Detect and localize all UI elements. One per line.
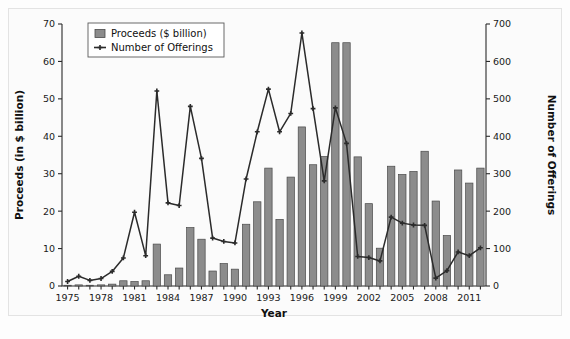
x-tick-label-7: 1996 xyxy=(290,292,314,303)
bar-1984 xyxy=(164,275,171,286)
bar-2009 xyxy=(443,235,450,286)
y-tick-label-7: 70 xyxy=(43,18,55,29)
bar-1987 xyxy=(198,239,205,286)
y-tick-label-1: 10 xyxy=(43,243,55,254)
bar-1978 xyxy=(97,285,104,286)
y-tick-label-5: 50 xyxy=(43,93,55,104)
bar-2002 xyxy=(365,204,372,286)
x-tick-label-3: 1984 xyxy=(156,292,180,303)
bar-1996 xyxy=(298,127,305,286)
legend-swatch-proceeds xyxy=(95,30,105,38)
offerings-marker-1977 xyxy=(87,278,92,283)
x-tick-label-11: 2008 xyxy=(424,292,448,303)
x-tick-label-2: 1981 xyxy=(122,292,146,303)
bar-1985 xyxy=(175,268,182,286)
offerings-marker-1982 xyxy=(143,253,148,258)
bar-1977 xyxy=(86,285,93,286)
x-tick-label-5: 1990 xyxy=(223,292,247,303)
chart-figure: 0102030405060700100200300400500600700197… xyxy=(0,0,570,339)
y2-tick-label-7: 700 xyxy=(493,18,511,29)
y2-tick-label-5: 500 xyxy=(493,93,511,104)
x-tick-label-6: 1993 xyxy=(256,292,280,303)
y2-axis-title: Number of Offerings xyxy=(546,95,558,216)
y-axis-title: Proceeds (in $ billion) xyxy=(13,90,25,220)
x-axis-title: Year xyxy=(260,307,288,319)
legend-label-offerings: Number of Offerings xyxy=(111,42,213,53)
y2-tick-label-1: 100 xyxy=(493,243,511,254)
y2-tick-label-0: 0 xyxy=(493,280,499,291)
x-tick-label-0: 1975 xyxy=(55,292,79,303)
bar-1975 xyxy=(64,285,71,286)
bar-2003 xyxy=(376,248,383,286)
bar-1979 xyxy=(109,284,116,286)
x-tick-label-4: 1987 xyxy=(189,292,213,303)
offerings-marker-1993 xyxy=(266,87,271,92)
offerings-marker-1975 xyxy=(65,279,70,284)
y-tick-label-3: 30 xyxy=(43,168,55,179)
y-tick-label-0: 0 xyxy=(49,280,55,291)
bar-2007 xyxy=(421,151,428,286)
legend-label-proceeds: Proceeds ($ billion) xyxy=(111,28,207,39)
y-tick-label-4: 40 xyxy=(43,131,55,142)
bar-2010 xyxy=(454,170,461,286)
ipo-proceeds-offerings-chart: 0102030405060700100200300400500600700197… xyxy=(0,0,570,339)
bar-1976 xyxy=(75,285,82,286)
offerings-marker-1985 xyxy=(177,203,182,208)
y2-tick-label-4: 400 xyxy=(493,131,511,142)
bar-2012 xyxy=(477,168,484,286)
x-tick-label-12: 2011 xyxy=(457,292,481,303)
offerings-marker-1992 xyxy=(255,129,260,134)
y-tick-label-6: 60 xyxy=(43,56,55,67)
bar-1988 xyxy=(209,271,216,286)
offerings-marker-1997 xyxy=(311,106,316,111)
offerings-marker-1987 xyxy=(199,156,204,161)
bar-2006 xyxy=(410,171,417,286)
bar-1986 xyxy=(187,228,194,286)
y-tick-label-2: 20 xyxy=(43,206,55,217)
bar-1983 xyxy=(153,244,160,286)
bar-1980 xyxy=(120,281,127,286)
bar-2001 xyxy=(354,157,361,286)
x-tick-label-9: 2002 xyxy=(357,292,381,303)
offerings-marker-1981 xyxy=(132,210,137,215)
bar-1982 xyxy=(142,281,149,286)
bar-1990 xyxy=(231,269,238,286)
bar-2008 xyxy=(432,201,439,286)
x-tick-label-10: 2005 xyxy=(390,292,414,303)
bar-1991 xyxy=(242,224,249,286)
y2-tick-label-2: 200 xyxy=(493,206,511,217)
bar-1995 xyxy=(287,177,294,286)
offerings-marker-1976 xyxy=(76,274,81,279)
bar-1997 xyxy=(309,165,316,286)
bar-1992 xyxy=(254,202,261,286)
offerings-marker-1989 xyxy=(221,239,226,244)
offerings-line xyxy=(68,33,481,282)
bar-1993 xyxy=(265,168,272,286)
bar-1989 xyxy=(220,264,227,286)
x-tick-label-1: 1978 xyxy=(89,292,113,303)
offerings-marker-1984 xyxy=(166,201,171,206)
bar-2005 xyxy=(399,174,406,286)
bar-1999 xyxy=(332,43,339,286)
offerings-marker-1983 xyxy=(154,89,159,94)
offerings-marker-1990 xyxy=(233,241,238,246)
bar-1994 xyxy=(276,219,283,286)
offerings-marker-1986 xyxy=(188,104,193,109)
bar-2011 xyxy=(466,183,473,286)
offerings-marker-1996 xyxy=(299,31,304,36)
y2-tick-label-6: 600 xyxy=(493,56,511,67)
y2-tick-label-3: 300 xyxy=(493,168,511,179)
x-tick-label-8: 1999 xyxy=(323,292,347,303)
offerings-marker-1988 xyxy=(210,236,215,241)
bar-1981 xyxy=(131,282,138,286)
offerings-marker-1991 xyxy=(244,177,249,182)
